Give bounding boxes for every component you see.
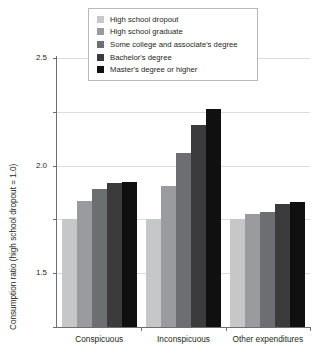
legend-swatch-icon: [97, 16, 104, 23]
legend-swatch-icon: [97, 28, 104, 35]
bar[interactable]: [146, 219, 161, 327]
bar-group: [226, 58, 310, 327]
bar-chart: Consumption ratio (high school dropout =…: [0, 0, 321, 359]
plot-area: 0.00.51.01.52.02.5ConspicuousInconspicuo…: [57, 58, 310, 327]
legend-swatch-icon: [97, 66, 104, 73]
legend-item[interactable]: High school graduate: [97, 26, 251, 39]
legend-item[interactable]: High school dropout: [97, 13, 251, 26]
x-tick-mark: [141, 327, 142, 331]
chart-legend: High school dropoutHigh school graduateS…: [88, 8, 258, 81]
bar[interactable]: [191, 125, 206, 327]
legend-label: Some college and associate's degree: [110, 40, 238, 49]
bar[interactable]: [290, 202, 305, 327]
bar[interactable]: [161, 186, 176, 327]
y-gridline: [57, 327, 310, 328]
y-tick-label: 1.5: [36, 269, 47, 277]
legend-label: Master's degree or higher: [110, 65, 197, 74]
bar-group: [141, 58, 225, 327]
x-tick-label: Conspicuous: [75, 335, 123, 344]
x-tick-label: Inconspicuous: [157, 335, 210, 344]
legend-item[interactable]: Bachelor's degree: [97, 51, 251, 64]
y-tick-label: 2.5: [36, 54, 47, 62]
legend-label: High school graduate: [110, 27, 183, 36]
bar[interactable]: [62, 219, 77, 327]
bar[interactable]: [77, 201, 92, 327]
bar[interactable]: [230, 219, 245, 327]
bar[interactable]: [245, 214, 260, 327]
bar[interactable]: [275, 204, 290, 327]
legend-label: Bachelor's degree: [110, 53, 172, 62]
legend-swatch-icon: [97, 41, 104, 48]
bar-group: [57, 58, 141, 327]
legend-item[interactable]: Some college and associate's degree: [97, 38, 251, 51]
x-tick-mark: [310, 327, 311, 331]
bar[interactable]: [176, 153, 191, 327]
legend-item[interactable]: Master's degree or higher: [97, 63, 251, 76]
x-tick-mark: [226, 327, 227, 331]
bar[interactable]: [260, 212, 275, 327]
y-tick-mark: 0.0: [53, 327, 57, 328]
bar[interactable]: [107, 183, 122, 327]
x-tick-label: Other expenditures: [233, 335, 304, 344]
bar[interactable]: [206, 109, 221, 327]
bar[interactable]: [92, 189, 107, 327]
bar[interactable]: [122, 182, 137, 327]
legend-label: High school dropout: [110, 15, 178, 24]
legend-swatch-icon: [97, 54, 104, 61]
y-tick-label: 2.0: [36, 162, 47, 170]
y-axis-title: Consumption ratio (high school dropout =…: [9, 30, 18, 330]
